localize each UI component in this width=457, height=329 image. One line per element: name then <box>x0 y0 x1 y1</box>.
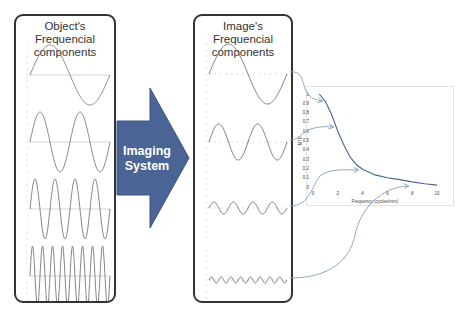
connector-low <box>290 72 322 101</box>
connector-vhigh <box>290 186 408 278</box>
connector-high <box>290 170 358 206</box>
connector-mid <box>290 127 333 140</box>
connector-arrows <box>0 0 457 329</box>
